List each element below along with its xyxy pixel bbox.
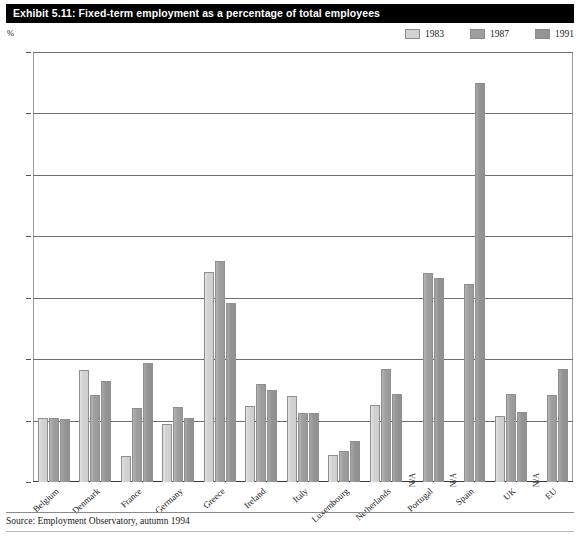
bar-group-spain: N/A — [448, 52, 490, 482]
exhibit-chart-page: Exhibit 5.11: Fixed-term employment as a… — [0, 0, 580, 537]
x-axis-label-greece: Greece — [201, 486, 227, 510]
bar-greece-1987 — [215, 261, 225, 482]
bar-belgium-1991 — [60, 419, 70, 482]
bar-greece-1983 — [204, 272, 214, 482]
y-tick-mark-25 — [26, 175, 31, 176]
bar-groups: N/AN/AN/A — [33, 52, 573, 482]
bar-group-eu: N/A — [531, 52, 573, 482]
legend-item-1991: 1991 — [535, 29, 574, 39]
x-label-cell: UK — [490, 483, 532, 527]
bar-ireland-1983 — [245, 406, 255, 482]
bar-group-netherlands — [365, 52, 407, 482]
bar-na-spain-1983: N/A — [453, 436, 463, 482]
x-axis-label-uk: UK — [501, 486, 517, 502]
bar-eu-1987 — [547, 395, 557, 482]
plot-area: 05101520253035 N/AN/AN/A — [33, 52, 573, 482]
x-axis-label-ireland: Ireland — [242, 486, 268, 510]
x-axis-label-belgium: Belgium — [31, 486, 61, 514]
bar-denmark-1987 — [90, 395, 100, 482]
x-axis-label-france: France — [119, 486, 144, 510]
bar-spain-1987 — [464, 284, 474, 482]
bar-uk-1983 — [495, 416, 505, 482]
bar-group-germany — [158, 52, 200, 482]
footer-divider — [6, 512, 574, 513]
legend-label: 1991 — [555, 29, 574, 39]
page-title: Exhibit 5.11: Fixed-term employment as a… — [6, 4, 574, 23]
bar-uk-1987 — [506, 394, 516, 482]
y-tick-mark-15 — [26, 298, 31, 299]
bar-group-france — [116, 52, 158, 482]
bar-eu-1991 — [558, 369, 568, 482]
bar-group-luxembourg — [324, 52, 366, 482]
bar-germany-1987 — [173, 407, 183, 482]
bar-germany-1983 — [162, 424, 172, 482]
y-tick-mark-10 — [26, 359, 31, 360]
bar-spain-1991 — [475, 83, 485, 482]
bar-france-1987 — [132, 408, 142, 482]
x-label-cell: Spain — [448, 483, 490, 527]
x-label-cell: Ireland — [241, 483, 283, 527]
legend-item-1983: 1983 — [405, 29, 444, 39]
bar-na-portugal-1983: N/A — [412, 436, 422, 482]
bar-ireland-1991 — [267, 390, 277, 482]
bar-ireland-1987 — [256, 384, 266, 482]
x-axis-label-spain: Spain — [454, 486, 476, 507]
bar-france-1983 — [121, 456, 131, 482]
x-axis-label-italy: Italy — [291, 486, 310, 504]
bar-greece-1991 — [226, 303, 236, 482]
chart-legend: 198319871991 — [405, 27, 574, 41]
x-label-cell: Portugal — [407, 483, 449, 527]
x-axis-label-eu: EU — [543, 486, 559, 501]
footer-divider-bottom — [6, 531, 574, 532]
bar-group-portugal: N/A — [407, 52, 449, 482]
bar-na-eu-1983: N/A — [536, 436, 546, 482]
legend-swatch-icon-1983 — [405, 29, 420, 39]
y-axis-unit-label: % — [7, 28, 14, 38]
bar-group-greece — [199, 52, 241, 482]
bar-group-uk — [490, 52, 532, 482]
legend-label: 1987 — [490, 29, 509, 39]
bar-belgium-1987 — [49, 418, 59, 482]
bar-portugal-1991 — [434, 278, 444, 482]
bar-luxembourg-1983 — [328, 455, 338, 482]
bar-italy-1987 — [298, 413, 308, 482]
y-tick-mark-20 — [26, 236, 31, 237]
x-label-cell: Netherlands — [365, 483, 407, 527]
bar-italy-1991 — [309, 413, 319, 482]
bar-netherlands-1991 — [392, 394, 402, 482]
x-label-cell: Greece — [199, 483, 241, 527]
bar-group-belgium — [33, 52, 75, 482]
y-tick-mark-35 — [26, 52, 31, 53]
legend-swatch-icon-1991 — [535, 29, 550, 39]
x-axis-label-portugal: Portugal — [405, 486, 434, 514]
bar-belgium-1983 — [38, 418, 48, 482]
y-tick-mark-5 — [26, 421, 31, 422]
bar-netherlands-1987 — [381, 369, 391, 482]
bar-uk-1991 — [517, 412, 527, 482]
legend-label: 1983 — [425, 29, 444, 39]
source-note: Source: Employment Observatory, autumn 1… — [6, 516, 190, 526]
bar-denmark-1983 — [79, 370, 89, 482]
y-tick-mark-30 — [26, 113, 31, 114]
bar-netherlands-1983 — [370, 405, 380, 482]
bar-group-ireland — [241, 52, 283, 482]
y-tick-mark-0 — [26, 482, 31, 483]
bar-germany-1991 — [184, 418, 194, 482]
bar-group-italy — [282, 52, 324, 482]
bar-luxembourg-1987 — [339, 451, 349, 482]
bar-group-denmark — [75, 52, 117, 482]
legend-swatch-icon-1987 — [470, 29, 485, 39]
bar-denmark-1991 — [101, 381, 111, 482]
bar-france-1991 — [143, 363, 153, 482]
bar-italy-1983 — [287, 396, 297, 482]
legend-item-1987: 1987 — [470, 29, 509, 39]
bar-portugal-1987 — [423, 273, 433, 482]
x-label-cell: EU — [531, 483, 573, 527]
bar-luxembourg-1991 — [350, 441, 360, 482]
